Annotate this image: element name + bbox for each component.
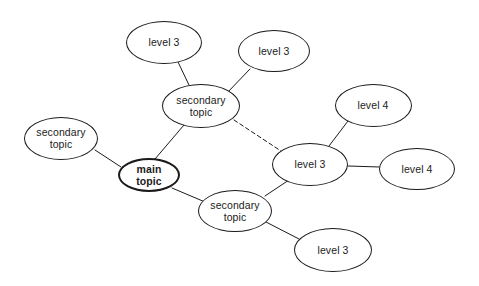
- node-label-secondary-topic-left: secondary topic: [36, 126, 85, 151]
- node-level-4-upper[interactable]: level 4: [335, 84, 412, 127]
- node-label-level-3-top-left: level 3: [148, 36, 179, 49]
- node-level-3-top-left[interactable]: level 3: [126, 21, 202, 64]
- node-secondary-topic-top[interactable]: secondary topic: [162, 84, 240, 128]
- node-level-3-center-right[interactable]: level 3: [272, 143, 348, 186]
- node-level-3-top-right[interactable]: level 3: [238, 30, 310, 72]
- node-main-topic[interactable]: main topic: [118, 158, 180, 192]
- mind-map-canvas: main topicsecondary topicsecondary topic…: [0, 0, 479, 286]
- node-layer: main topicsecondary topicsecondary topic…: [0, 0, 479, 286]
- node-label-main-topic: main topic: [136, 163, 162, 188]
- node-secondary-topic-left[interactable]: secondary topic: [24, 117, 98, 160]
- node-label-level-3-bottom: level 3: [317, 244, 348, 257]
- node-secondary-topic-bottom[interactable]: secondary topic: [198, 190, 272, 232]
- node-label-level-4-right: level 4: [401, 163, 432, 176]
- node-label-level-3-top-right: level 3: [258, 45, 289, 58]
- node-label-secondary-topic-top: secondary topic: [176, 94, 225, 119]
- node-level-4-right[interactable]: level 4: [379, 148, 455, 190]
- node-label-level-4-upper: level 4: [357, 99, 388, 112]
- node-label-secondary-topic-bottom: secondary topic: [210, 199, 259, 224]
- node-level-3-bottom[interactable]: level 3: [294, 228, 372, 272]
- node-label-level-3-center-right: level 3: [294, 158, 325, 171]
